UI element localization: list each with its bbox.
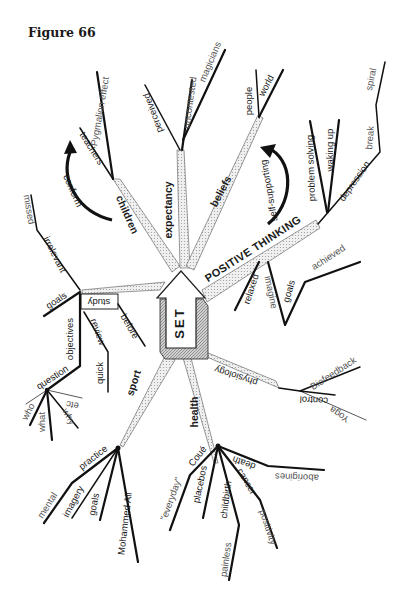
label-childbirth: childbirth	[218, 480, 234, 519]
label-everyday: "everyday"	[158, 476, 184, 522]
branch-sport: sport practice mental imagery goals Moha…	[35, 368, 143, 562]
label-what: what	[36, 412, 47, 433]
label-aborigines: aborigines	[275, 471, 319, 484]
label-etc: etc	[65, 399, 80, 412]
label-quick: quick	[94, 362, 105, 384]
center-set-arrow: SET	[157, 271, 208, 359]
branch-study: study goals irrelevant missed objectives…	[18, 194, 145, 440]
hub-node	[45, 388, 49, 392]
label-imagine: imagine	[263, 275, 281, 310]
hub-node	[216, 444, 221, 449]
label-conform: conform	[61, 173, 85, 209]
branch-children: children teachers Pygmalion effect confo…	[61, 72, 141, 235]
label-who: who	[18, 401, 36, 422]
label-goals-pt: goals	[280, 278, 297, 303]
label-study: study	[87, 297, 110, 308]
label-control: control	[299, 394, 328, 406]
trunk-sport	[120, 354, 175, 447]
trunk-study	[82, 282, 165, 294]
label-problem-solving: problem solving	[304, 135, 317, 202]
label-positivity: positivity	[257, 508, 279, 546]
mind-map: SET children teachers Pygmalion effect c…	[0, 0, 404, 614]
label-waking-up: waking up	[324, 129, 335, 173]
label-people: people	[243, 87, 254, 116]
arrowhead-icon	[64, 140, 77, 154]
label-spiral: spiral	[363, 67, 378, 91]
label-before: before	[119, 312, 142, 341]
branch-health: health physiology control Biofeedback Yo…	[158, 354, 366, 580]
label-missed: missed	[21, 194, 37, 226]
label-objectives: objectives	[64, 318, 75, 360]
label-sport: sport	[123, 368, 143, 397]
hub-node	[116, 446, 121, 451]
label-uncontested: uncontested	[180, 76, 198, 129]
label-break: break	[363, 125, 376, 150]
label-depression: depression	[336, 159, 372, 203]
label-biofeedback: Biofeedback	[308, 354, 358, 392]
label-expectancy: expectancy	[162, 181, 174, 238]
label-imagery: imagery	[60, 484, 86, 519]
label-yoga: Yoga	[327, 404, 351, 425]
label-health: health	[188, 397, 200, 428]
label-goals-sport: goals	[86, 492, 102, 517]
label-review: review	[88, 317, 108, 347]
center-label: SET	[172, 307, 187, 338]
label-self-supporting: self-supporting	[258, 159, 280, 222]
label-irrelevant: irrelevant	[41, 235, 69, 275]
label-achieved: achieved	[309, 242, 347, 272]
label-perceived: perceived	[140, 92, 164, 134]
label-world: world	[255, 73, 276, 99]
trunk-expectancy	[177, 150, 190, 268]
